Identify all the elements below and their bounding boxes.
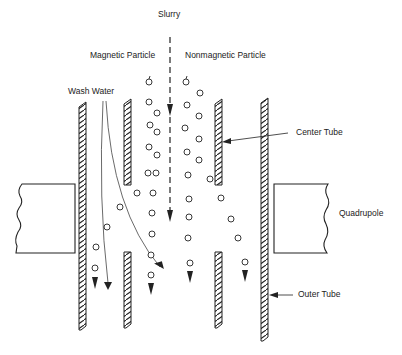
slurry-flow-arrow (167, 37, 173, 222)
center-tube-left-upper (124, 99, 131, 185)
outer-tube-leader (269, 292, 293, 298)
outer-tube-right-wall (261, 98, 268, 341)
wash-water-label: Wash Water (68, 86, 114, 96)
nonmagnetic-particle-label: Nonmagnetic Particle (185, 50, 266, 60)
outer-tube-label: Outer Tube (298, 289, 341, 299)
quadrupole-right (274, 184, 329, 253)
magnetic-particle-label: Magnetic Particle (90, 50, 155, 60)
quadrupole-left (16, 184, 75, 253)
center-tube-right-upper (215, 99, 222, 185)
outer-tube-left-wall (79, 102, 86, 330)
center-tube-leader (222, 133, 288, 144)
magnetic-particle-arrows (92, 277, 154, 295)
slurry-label: Slurry (158, 9, 180, 19)
quadrupole-label: Quadrupole (339, 208, 383, 218)
center-tube-right-lower (215, 252, 222, 328)
center-tube-label: Center Tube (296, 127, 343, 137)
center-tube-left-lower (124, 252, 131, 328)
